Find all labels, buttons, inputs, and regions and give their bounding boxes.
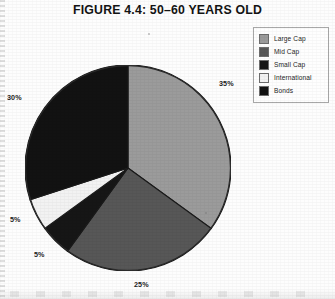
legend-label-bonds: Bonds (274, 88, 293, 95)
figure-page: FIGURE 4.4: 50–60 YEARS OLD 35% 25% 5% 5… (0, 0, 335, 299)
legend-item-small-cap[interactable]: Small Cap (259, 59, 324, 71)
legend-item-mid-cap[interactable]: Mid Cap (259, 46, 324, 58)
legend-item-bonds[interactable]: Bonds (259, 85, 324, 97)
legend-swatch-small-cap (259, 60, 269, 70)
legend-label-international: International (274, 75, 312, 82)
slice-label-international: 5% (10, 215, 21, 224)
legend-swatch-international (259, 73, 269, 83)
legend-label-mid-cap: Mid Cap (274, 49, 299, 56)
scan-speck (205, 212, 207, 214)
legend-swatch-mid-cap (259, 47, 269, 57)
slice-label-bonds: 30% (7, 93, 22, 102)
scan-speck (148, 33, 150, 35)
legend-item-international[interactable]: International (259, 72, 324, 84)
slice-label-large-cap: 35% (219, 79, 234, 88)
slice-label-mid-cap: 25% (134, 280, 149, 289)
legend-swatch-bonds (259, 86, 269, 96)
legend-label-large-cap: Large Cap (274, 36, 306, 43)
slice-label-small-cap: 5% (34, 250, 45, 259)
scan-artifact-bottom-edge (0, 289, 335, 299)
page-title: FIGURE 4.4: 50–60 YEARS OLD (0, 3, 335, 17)
legend-item-large-cap[interactable]: Large Cap (259, 33, 324, 45)
legend-swatch-large-cap (259, 34, 269, 44)
scan-artifact-left-edge (0, 0, 5, 299)
pie-chart-svg (25, 65, 231, 271)
legend-label-small-cap: Small Cap (274, 62, 305, 69)
chart-legend: Large Cap Mid Cap Small Cap Internationa… (253, 27, 329, 103)
pie-chart (25, 65, 231, 271)
